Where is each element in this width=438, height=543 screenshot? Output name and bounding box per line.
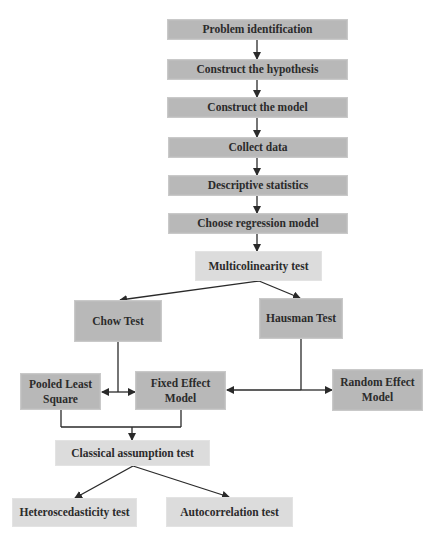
flowchart: Problem identification Construct the hyp…: [0, 0, 438, 543]
node-label: Multicolinearity test: [209, 259, 309, 274]
node-label: Problem identification: [203, 22, 313, 37]
node-label: Fixed Effect Model: [148, 376, 213, 406]
node-label: Construct the model: [207, 100, 307, 115]
node-autocorrelation-test: Autocorrelation test: [166, 497, 293, 527]
node-problem-identification: Problem identification: [167, 19, 348, 40]
node-classical-assumption-test: Classical assumption test: [55, 440, 210, 466]
node-label: Classical assumption test: [71, 446, 194, 461]
node-chow-test: Chow Test: [74, 300, 162, 342]
node-pooled-least-square: Pooled Least Square: [20, 373, 101, 410]
node-label: Autocorrelation test: [180, 505, 278, 520]
node-label: Construct the hypothesis: [196, 62, 318, 77]
node-label: Chow Test: [92, 314, 143, 329]
node-random-effect-model: Random Effect Model: [332, 369, 423, 411]
node-multicolinearity-test: Multicolinearity test: [195, 251, 322, 281]
node-label: Choose regression model: [197, 216, 319, 231]
node-descriptive-statistics: Descriptive statistics: [168, 175, 348, 196]
node-construct-hypothesis: Construct the hypothesis: [167, 59, 348, 80]
node-collect-data: Collect data: [168, 137, 348, 158]
node-label: Descriptive statistics: [208, 178, 309, 193]
node-label: Heteroscedasticity test: [20, 505, 130, 520]
node-construct-model: Construct the model: [167, 97, 348, 118]
node-label: Hausman Test: [266, 311, 336, 326]
node-choose-regression-model: Choose regression model: [168, 213, 348, 234]
node-label: Collect data: [228, 140, 287, 155]
node-label: Random Effect Model: [339, 375, 416, 405]
node-fixed-effect-model: Fixed Effect Model: [135, 371, 226, 410]
node-heteroscedasticity-test: Heteroscedasticity test: [12, 498, 137, 527]
node-label: Pooled Least Square: [27, 377, 94, 407]
node-hausman-test: Hausman Test: [259, 298, 343, 339]
